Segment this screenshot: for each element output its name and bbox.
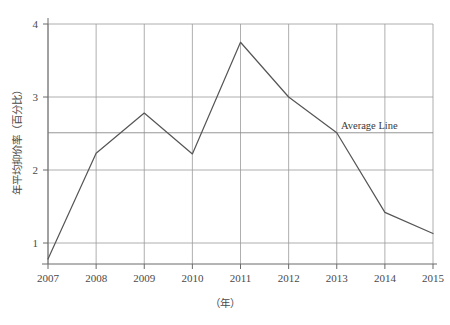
average-line-label: Average Line [341, 120, 398, 131]
x-tick-label: 2015 [422, 272, 445, 284]
y-tick-label: 3 [33, 91, 39, 103]
x-tick-label: 2013 [326, 272, 349, 284]
x-tick-label: 2009 [133, 272, 156, 284]
y-axis-title: 年平均抑价率（百分比） [11, 85, 23, 195]
y-tick-label: 4 [33, 18, 39, 30]
chart-container: 1234 20072008200920102011201220132014201… [0, 0, 450, 325]
x-tick-label: 2012 [278, 272, 300, 284]
y-tick-label: 2 [33, 164, 39, 176]
x-tick-label: 2010 [181, 272, 204, 284]
line-chart: 1234 20072008200920102011201220132014201… [0, 0, 450, 325]
x-tick-label: 2014 [374, 272, 397, 284]
y-tick-label: 1 [33, 237, 39, 249]
x-tick-label: 2011 [230, 272, 252, 284]
x-axis-tick-labels: 200720082009201020112012201320142015 [37, 272, 445, 284]
x-tick-label: 2007 [37, 272, 60, 284]
x-tick-label: 2008 [85, 272, 108, 284]
x-axis-title: （年） [210, 297, 240, 309]
